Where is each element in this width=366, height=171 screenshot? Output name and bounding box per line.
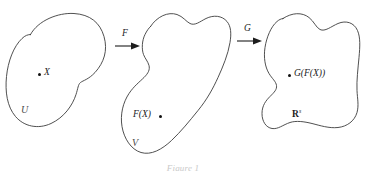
point-dot-gfx [288, 74, 291, 77]
set-label-rs-base: R [292, 109, 299, 119]
map-g-arrow [237, 38, 262, 45]
point-label-gfx: G(F(X)) [294, 69, 325, 79]
map-f-arrow-head [131, 43, 140, 50]
point-label-x: X [44, 68, 50, 78]
map-g-label: G [244, 24, 251, 34]
figure-caption: Figure 1 [0, 163, 366, 171]
map-g-arrow-head [253, 38, 262, 45]
diagram-canvas [0, 0, 366, 171]
set-label-rs-superscript: s [299, 108, 301, 114]
set-label-rs: Rs [292, 110, 301, 120]
set-label-v: V [132, 138, 138, 148]
point-dot-x [38, 73, 41, 76]
set-label-u: U [21, 105, 28, 115]
point-label-fx: F(X) [133, 110, 151, 120]
blob-outline-v [121, 14, 230, 154]
map-f-arrow [115, 43, 140, 50]
map-f-label: F [122, 29, 128, 39]
point-dot-fx [159, 115, 162, 118]
figure-container: F G X U F(X) V G(F(X)) Rs Figure 1 [0, 0, 366, 171]
